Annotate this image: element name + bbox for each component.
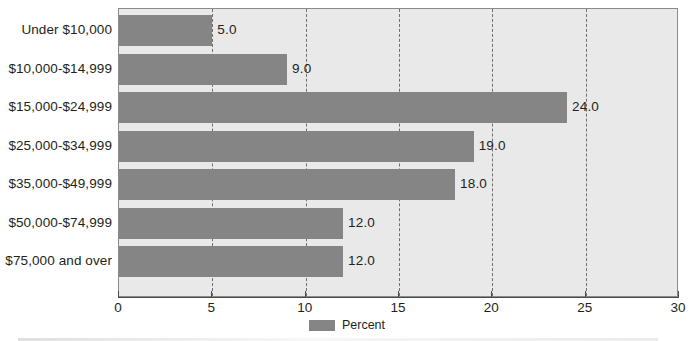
bar: [119, 15, 212, 46]
x-axis-tick: [398, 291, 399, 298]
category-label: $35,000-$49,999: [8, 168, 112, 199]
category-label: Under $10,000: [21, 14, 112, 45]
plot-area: [118, 8, 678, 297]
bar: [119, 169, 455, 200]
category-label: $25,000-$34,999: [8, 130, 112, 161]
x-axis-tick-label: 0: [114, 300, 122, 315]
x-axis-tick: [678, 291, 679, 298]
bar: [119, 246, 343, 277]
bar-value-label: 18.0: [460, 168, 487, 199]
x-axis-tick-label: 20: [484, 300, 499, 315]
x-axis-tick-label: 10: [297, 300, 312, 315]
x-axis-tick-label: 5: [208, 300, 216, 315]
bar: [119, 92, 567, 123]
x-axis-tick-label: 25: [577, 300, 592, 315]
category-label: $50,000-$74,999: [8, 207, 112, 238]
legend-swatch-percent: [309, 320, 335, 331]
category-label: $15,000-$24,999: [8, 91, 112, 122]
x-axis-tick: [211, 291, 212, 298]
x-axis-tick: [118, 291, 119, 298]
bar: [119, 131, 474, 162]
bar-layer: [119, 9, 677, 296]
bar: [119, 208, 343, 239]
x-axis-tick: [585, 291, 586, 298]
x-axis-tick: [491, 291, 492, 298]
bar-chart: Under $10,000$10,000-$14,999$15,000-$24,…: [0, 0, 694, 341]
category-label: $10,000-$14,999: [8, 53, 112, 84]
x-axis-tick: [305, 291, 306, 298]
bar-value-label: 12.0: [348, 245, 375, 276]
x-axis-tick-label: 15: [390, 300, 405, 315]
legend-label-percent: Percent: [342, 318, 385, 332]
bar-value-label: 9.0: [292, 53, 311, 84]
legend: Percent: [0, 318, 694, 332]
x-axis-tick-label: 30: [670, 300, 685, 315]
bar: [119, 54, 287, 85]
category-label: $75,000 and over: [5, 245, 112, 276]
bar-value-label: 24.0: [572, 91, 599, 122]
bar-value-label: 12.0: [348, 207, 375, 238]
bar-value-label: 5.0: [217, 14, 236, 45]
bar-value-label: 19.0: [479, 130, 506, 161]
